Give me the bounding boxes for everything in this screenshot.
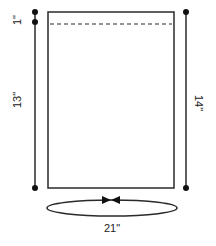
dot-marker bbox=[32, 185, 38, 191]
left-dimension bbox=[32, 9, 38, 191]
pattern-diagram: 1" 13" 14" 21" bbox=[0, 0, 216, 246]
circumference-label: 21" bbox=[104, 222, 120, 234]
pattern-panel bbox=[48, 12, 174, 188]
right-height-label: 14" bbox=[193, 95, 205, 111]
circumference-indicator bbox=[47, 196, 177, 216]
dot-marker bbox=[183, 9, 189, 15]
dot-marker bbox=[32, 9, 38, 15]
dot-marker bbox=[183, 185, 189, 191]
arrow-left-icon bbox=[111, 196, 120, 204]
right-dimension bbox=[183, 9, 189, 191]
dot-marker bbox=[32, 19, 38, 25]
arrow-right-icon bbox=[102, 196, 111, 204]
left-height-label: 13" bbox=[11, 92, 23, 108]
top-allowance-label: 1" bbox=[11, 15, 23, 25]
